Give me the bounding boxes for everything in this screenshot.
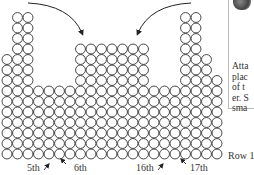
circle [160,139,170,149]
circle [2,128,12,138]
circle [212,128,222,138]
circle [191,139,201,149]
circle [23,65,33,75]
label-17th: 17th [190,163,208,173]
circle [76,55,86,65]
circle [97,86,107,96]
circle [65,86,75,96]
circle [170,128,180,138]
circle [97,97,107,107]
circle [202,65,212,75]
circle [149,118,159,128]
circle [13,65,23,75]
circle [118,149,128,159]
circle [128,76,138,86]
circle [212,97,222,107]
arrow-right-curve [138,3,191,33]
label-16th: 16th [136,163,154,173]
pointer-arrow-17th [182,160,186,164]
circle [181,13,191,23]
circle-stack-diagram [0,0,228,175]
circle [13,23,23,33]
circle [13,107,23,117]
circle [86,128,96,138]
circle [191,65,201,75]
circle [44,107,54,117]
circle [202,76,212,86]
circle [202,139,212,149]
circle [212,118,222,128]
circle [2,149,12,159]
circle [160,107,170,117]
circle [2,65,12,75]
circle [181,55,191,65]
circle [118,118,128,128]
circle [128,97,138,107]
circle [97,107,107,117]
circle [97,55,107,65]
circle [2,118,12,128]
circle [118,44,128,54]
circle [97,118,107,128]
circle [107,149,117,159]
circle [191,76,201,86]
circle [2,86,12,96]
circle [44,118,54,128]
circle [13,86,23,96]
circle [44,86,54,96]
circle [86,86,96,96]
circle [212,86,222,96]
circle [118,97,128,107]
circle [107,128,117,138]
circle [191,107,201,117]
circle [2,97,12,107]
circle [44,139,54,149]
circle [13,139,23,149]
circle [170,86,180,96]
circle [55,149,65,159]
circle [76,97,86,107]
circle [118,107,128,117]
circle [160,86,170,96]
circle [212,149,222,159]
circle [202,86,212,96]
circle [181,118,191,128]
circle [181,34,191,44]
circle [55,128,65,138]
circle [44,149,54,159]
circle [13,128,23,138]
circle [181,44,191,54]
circle [212,76,222,86]
label-5th: 5th [27,163,40,173]
circle [202,118,212,128]
circle [160,97,170,107]
caption-line: er. S [232,93,249,104]
circle [76,44,86,54]
circle [76,149,86,159]
circle [191,13,201,23]
circle [202,149,212,159]
circle [86,149,96,159]
circle [191,149,201,159]
circle [23,44,33,54]
circle [13,44,23,54]
circle [170,97,180,107]
circle [191,55,201,65]
circle [86,118,96,128]
circle [76,139,86,149]
circle [44,97,54,107]
circle [139,86,149,96]
circle [23,76,33,86]
circle [13,76,23,86]
circle [55,97,65,107]
circle [149,97,159,107]
circle [191,86,201,96]
caption-line: Atta [232,61,249,72]
circle [65,128,75,138]
circle [13,149,23,159]
circle [139,149,149,159]
circle [191,44,201,54]
circle [76,65,86,75]
circle [23,13,33,23]
circle [139,65,149,75]
